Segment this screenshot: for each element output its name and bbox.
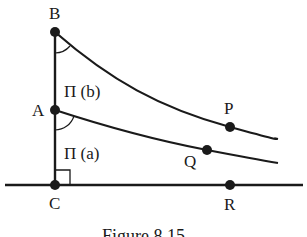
label-p: P bbox=[224, 99, 233, 118]
point-p-dot bbox=[225, 122, 235, 132]
angle-label-b: Π (b) bbox=[64, 82, 100, 101]
angle-label-a: Π (a) bbox=[64, 144, 99, 163]
angle-arc-b bbox=[55, 46, 70, 53]
figure-diagram: B A C P Q R Π (b) Π (a) Figure 8.15 bbox=[0, 0, 307, 237]
label-a: A bbox=[32, 101, 45, 120]
point-a-dot bbox=[50, 105, 60, 115]
point-b-dot bbox=[50, 27, 60, 37]
label-r: R bbox=[224, 195, 236, 214]
point-c-dot bbox=[50, 180, 60, 190]
figure-caption: Figure 8.15 bbox=[102, 226, 185, 237]
angle-arc-a bbox=[55, 116, 74, 130]
label-b: B bbox=[49, 4, 60, 23]
point-q-dot bbox=[202, 145, 212, 155]
label-q: Q bbox=[184, 152, 196, 171]
point-r-dot bbox=[225, 180, 235, 190]
label-c: C bbox=[49, 194, 60, 213]
